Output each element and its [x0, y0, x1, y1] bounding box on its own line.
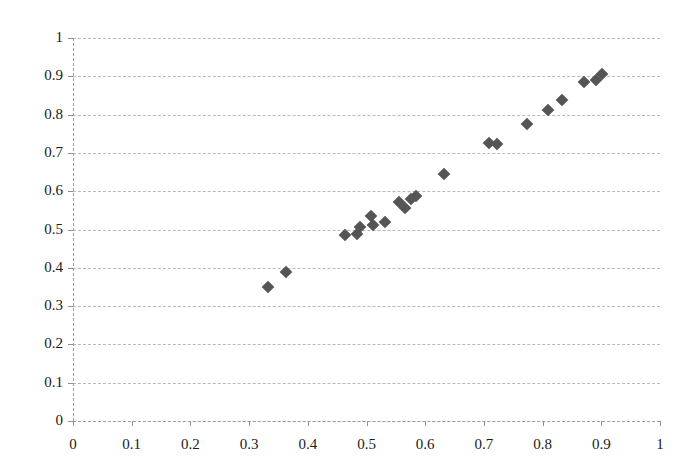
x-axis-tick-label: 0.3 [224, 437, 274, 452]
x-axis-tick [660, 421, 661, 426]
y-axis-tick-label: 0.1 [11, 375, 63, 390]
x-axis-tick [484, 421, 485, 426]
x-axis-tick-label: 0.2 [165, 437, 215, 452]
x-axis-tick-label: 1 [635, 437, 685, 452]
x-axis-tick-label: 0.8 [518, 437, 568, 452]
data-point [378, 215, 391, 228]
y-axis-tick-label: 0.4 [11, 260, 63, 275]
data-point [438, 168, 451, 181]
data-point [262, 281, 275, 294]
y-axis-tick-label: 1 [11, 30, 63, 45]
x-axis-tick [543, 421, 544, 426]
y-axis-tick-label: 0.3 [11, 298, 63, 313]
data-point [339, 228, 352, 241]
x-axis-tick-label: 0.5 [342, 437, 392, 452]
x-axis-tick [249, 421, 250, 426]
y-axis-tick-label: 0 [11, 413, 63, 428]
x-axis-tick [132, 421, 133, 426]
x-axis-tick [73, 421, 74, 426]
y-axis-tick-label: 0.5 [11, 222, 63, 237]
x-axis-tick-label: 0.6 [400, 437, 450, 452]
y-axis-tick-label: 0.2 [11, 336, 63, 351]
x-axis-tick [190, 421, 191, 426]
x-axis-tick [308, 421, 309, 426]
y-axis-tick-label: 0.7 [11, 145, 63, 160]
y-axis-tick-label: 0.9 [11, 68, 63, 83]
data-point [556, 94, 569, 107]
x-axis-tick-label: 0.9 [576, 437, 626, 452]
x-axis-tick-label: 0 [48, 437, 98, 452]
y-axis-tick-label: 0.8 [11, 107, 63, 122]
x-axis-tick-label: 0.1 [107, 437, 157, 452]
scatter-chart: 00.10.20.30.40.50.60.70.80.91 00.10.20.3… [0, 0, 699, 475]
x-axis-tick [367, 421, 368, 426]
data-point [578, 76, 591, 89]
x-axis-tick-label: 0.7 [459, 437, 509, 452]
data-point [521, 118, 534, 131]
y-axis-tick-label: 0.6 [11, 183, 63, 198]
x-axis-tick [601, 421, 602, 426]
data-point [280, 266, 293, 279]
x-axis-tick [425, 421, 426, 426]
x-axis-tick-label: 0.4 [283, 437, 333, 452]
data-point [542, 104, 555, 117]
plot-area [73, 38, 660, 421]
